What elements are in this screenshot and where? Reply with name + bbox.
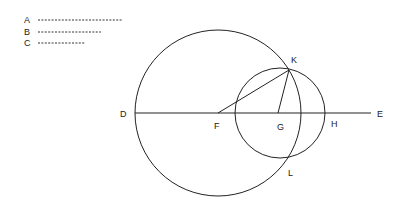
segment-gk <box>278 70 289 113</box>
legend: A B C <box>24 15 122 48</box>
point-label-h: H <box>331 119 338 129</box>
legend-label-b: B <box>24 27 30 37</box>
geometry-diagram: A B C D E F G H K L <box>0 0 406 205</box>
point-label-l: L <box>288 168 293 178</box>
point-label-f: F <box>214 121 220 131</box>
point-label-k: K <box>291 55 297 65</box>
legend-label-a: A <box>24 15 30 25</box>
point-label-g: G <box>277 122 284 132</box>
legend-label-c: C <box>24 38 31 48</box>
point-label-d: D <box>120 109 127 119</box>
point-label-e: E <box>377 109 383 119</box>
